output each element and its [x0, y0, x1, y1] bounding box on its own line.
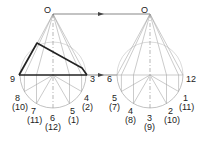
- right-point-label: 6: [107, 74, 112, 84]
- left-point-sub: (11): [27, 115, 42, 125]
- left-point-label: 9: [10, 74, 15, 84]
- right-point-sub: (11): [179, 102, 194, 112]
- right-apex-label: O: [141, 5, 148, 15]
- left-point-label: 3: [90, 74, 95, 84]
- left-point-sub: (10): [12, 102, 28, 112]
- left-apex-label: O: [44, 5, 51, 15]
- left-point-sub: (12): [45, 122, 61, 132]
- left-point-sub: (2): [82, 102, 93, 112]
- right-point-sub: (9): [144, 122, 155, 132]
- apex-arrowhead-icon: [98, 12, 104, 16]
- right-point-sub: (10): [164, 115, 180, 125]
- left-view: O 9 8 (10) 7 (11) 6 (12) 5 (1) 4 (2) 3: [10, 5, 95, 132]
- right-point-sub: (8): [125, 115, 136, 125]
- right-view: O 6 5 (7) 4 (8) 3 (9) 2 (10) 1 (11) 12: [107, 5, 196, 132]
- right-point-label: 12: [186, 74, 196, 84]
- pyramid-projection-diagram: O 9 8 (10) 7 (11) 6 (12) 5 (1) 4 (2) 3: [0, 0, 210, 142]
- right-point-sub: (7): [109, 102, 120, 112]
- left-point-sub: (1): [68, 115, 79, 125]
- base-arrowhead-icon: [98, 73, 104, 77]
